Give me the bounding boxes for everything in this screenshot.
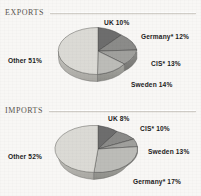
imports-label-cis: CIS* 10% — [140, 125, 170, 133]
imports-slice-other — [55, 125, 98, 172]
exports-panel: EXPORTS — [0, 0, 201, 98]
imports-label-other: Other 52% — [8, 153, 42, 161]
exports-chart: UK 10% Germany* 12% CIS* 13% Sweden 14% … — [0, 0, 201, 98]
exports-label-sweden: Sweden 14% — [131, 81, 172, 89]
exports-label-cis: CIS* 13% — [151, 60, 181, 68]
exports-pie-chart — [52, 20, 144, 88]
exports-label-germany: Germany* 12% — [141, 33, 189, 41]
imports-panel: IMPORTS — [0, 98, 201, 196]
imports-pie-chart — [52, 118, 144, 186]
exports-label-other: Other 51% — [8, 57, 42, 65]
imports-label-uk: UK 8% — [108, 115, 130, 123]
imports-chart: UK 8% CIS* 10% Sweden 13% Germany* 17% O… — [0, 98, 201, 196]
imports-label-germany: Germany* 17% — [133, 178, 181, 186]
imports-slice-germany — [94, 147, 138, 173]
imports-label-sweden: Sweden 13% — [148, 148, 189, 156]
exports-label-uk: UK 10% — [104, 19, 129, 27]
